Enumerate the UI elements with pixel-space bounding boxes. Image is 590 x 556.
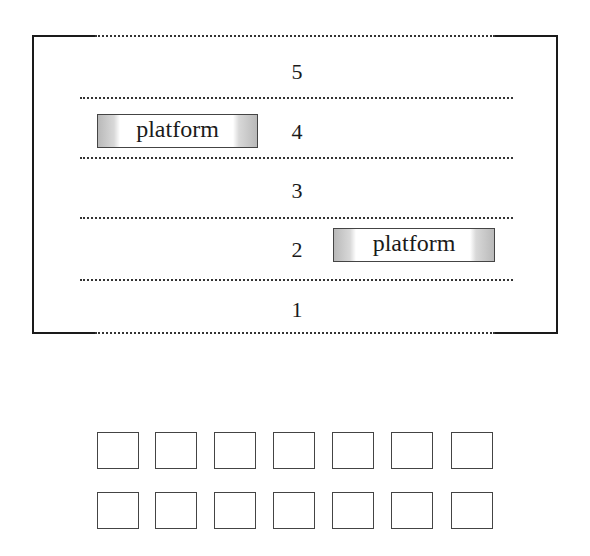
grid-square-r1-c5[interactable]	[332, 432, 374, 469]
grid-square-r2-c6[interactable]	[391, 492, 433, 529]
ground-left-segment	[32, 332, 95, 334]
floor-number-4: 4	[282, 119, 312, 145]
ground-right-segment	[495, 332, 558, 334]
floor-divider	[80, 279, 513, 281]
platform-floor-4[interactable]: platform	[97, 114, 258, 148]
floor-number-5: 5	[282, 59, 312, 85]
floor-number-1: 1	[282, 297, 312, 323]
grid-square-r1-c2[interactable]	[155, 432, 197, 469]
floor-number-3: 3	[282, 178, 312, 204]
roof-dotted-segment	[95, 35, 495, 37]
grid-square-r2-c4[interactable]	[273, 492, 315, 529]
grid-square-r2-c2[interactable]	[155, 492, 197, 529]
grid-square-r1-c4[interactable]	[273, 432, 315, 469]
building-right-wall	[556, 35, 558, 334]
floor-divider	[80, 217, 513, 219]
platform-label: platform	[373, 231, 456, 259]
roof-right-segment	[495, 35, 558, 37]
building-left-wall	[32, 35, 34, 334]
floor-number-2: 2	[282, 237, 312, 263]
grid-square-r1-c1[interactable]	[97, 432, 139, 469]
grid-square-r2-c3[interactable]	[214, 492, 256, 529]
grid-square-r2-c5[interactable]	[332, 492, 374, 529]
grid-square-r1-c7[interactable]	[451, 432, 493, 469]
roof-left-segment	[32, 35, 95, 37]
grid-square-r1-c6[interactable]	[391, 432, 433, 469]
grid-square-r2-c1[interactable]	[97, 492, 139, 529]
grid-square-r2-c7[interactable]	[451, 492, 493, 529]
floor-divider	[80, 97, 513, 99]
floor-divider	[80, 157, 513, 159]
platform-floor-2[interactable]: platform	[333, 228, 495, 262]
ground-dotted-segment	[95, 332, 495, 334]
grid-square-r1-c3[interactable]	[214, 432, 256, 469]
platform-label: platform	[136, 117, 219, 145]
